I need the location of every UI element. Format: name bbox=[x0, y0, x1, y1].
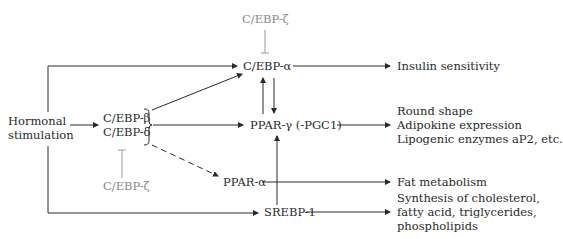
synthesis-line1: Synthesis of cholesterol, bbox=[397, 191, 540, 205]
synthesis-line2: fatty acid, triglycerides, bbox=[397, 205, 540, 219]
edge-hormonal-to-cebp-alpha bbox=[48, 66, 237, 112]
synthesis-line3: phospholipids bbox=[397, 219, 540, 233]
hormonal-line1: Hormonal bbox=[8, 114, 66, 128]
outcome-synthesis: Synthesis of cholesterol, fatty acid, tr… bbox=[397, 191, 540, 233]
node-cebp-beta: C/EBP-β bbox=[103, 111, 150, 125]
node-hormonal-stimulation: Hormonal stimulation bbox=[8, 114, 66, 142]
effect-round-shape: Round shape bbox=[397, 104, 563, 118]
outcome-fat-metabolism: Fat metabolism bbox=[397, 175, 487, 189]
outcome-ppar-gamma-effects: Round shape Adipokine expression Lipogen… bbox=[397, 104, 563, 146]
node-cebp-delta: C/EBP-δ bbox=[103, 125, 150, 139]
effect-adipokine: Adipokine expression bbox=[397, 118, 563, 132]
node-ppar-gamma: PPAR-γ (-PGC1) bbox=[250, 118, 342, 132]
edge-cebp-bd-to-ppar-alpha bbox=[152, 145, 218, 176]
node-cebp-zeta-top: C/EBP-ζ bbox=[242, 12, 289, 26]
node-cebp-zeta-bottom: C/EBP-ζ bbox=[103, 179, 150, 193]
node-ppar-alpha: PPAR-α bbox=[223, 175, 266, 189]
hormonal-line2: stimulation bbox=[8, 128, 66, 142]
effect-lipogenic: Lipogenic enzymes aP2, etc. bbox=[397, 132, 563, 146]
edge-cebp-bd-to-cebp-alpha bbox=[152, 74, 242, 110]
node-srebp1: SREBP-1 bbox=[264, 205, 316, 219]
node-cebp-alpha: C/EBP-α bbox=[243, 59, 291, 73]
outcome-insulin-sensitivity: Insulin sensitivity bbox=[397, 59, 500, 73]
